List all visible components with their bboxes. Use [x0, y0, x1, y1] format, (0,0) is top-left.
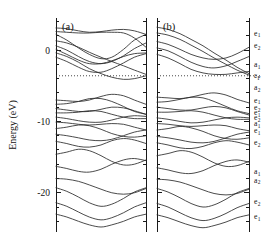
- band-structure-figure: 0-10-20Energy (eV)(a)(b)e1e2a1εFa2e1e2e1…: [0, 0, 272, 248]
- state-label-subscript: 2: [258, 87, 261, 93]
- state-label: a1: [254, 60, 261, 70]
- state-label-symbol: a1: [254, 60, 261, 70]
- band-curve: [56, 43, 146, 64]
- state-label: a2: [254, 83, 261, 93]
- state-label: εF: [254, 71, 261, 81]
- y-tick-label: -10: [37, 117, 50, 127]
- panel-a-bands: [56, 28, 146, 227]
- band-curve: [157, 111, 249, 120]
- panel-b-left-axis: [157, 18, 162, 232]
- state-label-symbol: e2: [254, 197, 261, 207]
- band-curve: [157, 141, 249, 149]
- state-label-subscript: 1: [258, 216, 261, 222]
- state-label-symbol: a2: [254, 176, 261, 186]
- state-label-symbol: e1: [254, 29, 261, 39]
- state-label: e1: [254, 212, 261, 222]
- state-label: e1: [254, 29, 261, 39]
- state-label-subscript: 2: [258, 201, 261, 207]
- state-label-subscript: 1: [258, 99, 261, 105]
- labels-layer: 0-10-20Energy (eV)(a)(b)e1e2a1εFa2e1e2e1…: [7, 21, 261, 222]
- state-label-subscript: 2: [258, 179, 261, 185]
- band-curve: [157, 160, 249, 174]
- state-label-subscript: 1: [258, 64, 261, 70]
- band-curve: [56, 188, 146, 207]
- band-curve: [56, 159, 146, 173]
- band-curve: [56, 32, 146, 48]
- band-curve: [157, 179, 249, 195]
- y-tick-label: -20: [37, 188, 50, 198]
- band-curve: [56, 214, 146, 227]
- state-label: e2: [254, 197, 261, 207]
- state-label-subscript: F: [258, 75, 261, 81]
- band-curve: [157, 215, 249, 228]
- state-label: e2: [254, 41, 261, 51]
- band-curve: [56, 111, 146, 119]
- band-curve: [56, 130, 146, 141]
- state-label-subscript: 1: [258, 123, 261, 129]
- band-curve: [56, 122, 146, 130]
- band-curve: [157, 188, 249, 207]
- band-curve: [157, 151, 249, 167]
- state-label-symbol: εF: [254, 71, 261, 81]
- band-curve: [56, 149, 146, 165]
- panel-label-a: (a): [62, 21, 74, 33]
- state-label: e2: [254, 138, 261, 148]
- state-label-symbol: a2: [254, 83, 261, 93]
- panel-b-bands: [157, 27, 249, 227]
- state-label-symbol: e1: [254, 212, 261, 222]
- band-curve: [56, 179, 146, 195]
- state-label-subscript: 1: [258, 130, 261, 136]
- band-curve: [56, 139, 146, 148]
- state-label: a2: [254, 176, 261, 186]
- band-curve: [157, 54, 249, 74]
- state-label-subscript: 2: [258, 45, 261, 51]
- state-label-symbol: e2: [254, 41, 261, 51]
- y-tick-label: 0: [45, 46, 50, 56]
- y-axis-title: Energy (eV): [7, 100, 19, 150]
- band-curve: [157, 33, 249, 75]
- band-curve: [157, 106, 249, 115]
- state-label-subscript: 2: [258, 142, 261, 148]
- band-structure-plot: 0-10-20Energy (eV)(a)(b)e1e2a1εFa2e1e2e1…: [0, 0, 272, 248]
- band-curve: [157, 132, 249, 143]
- state-label-subscript: 1: [258, 32, 261, 38]
- band-curve: [157, 42, 249, 60]
- panel-a-right-axis: [141, 18, 146, 232]
- band-curve: [56, 116, 146, 123]
- state-label-subscript: 1: [258, 171, 261, 177]
- band-curve: [157, 117, 249, 123]
- panel-b-right-axis: [244, 18, 249, 232]
- band-curve: [56, 34, 146, 58]
- panel-label-b: (b): [163, 21, 176, 33]
- state-label-symbol: e2: [254, 138, 261, 148]
- band-curve: [157, 124, 249, 131]
